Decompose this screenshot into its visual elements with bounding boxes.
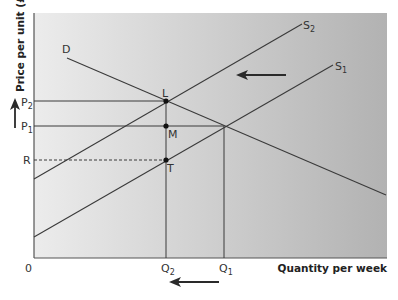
label-p1-sub: 1 bbox=[28, 126, 33, 135]
label-m: M bbox=[168, 128, 178, 141]
label-q1-sub: 1 bbox=[228, 268, 233, 277]
quantity-left-arrow-icon bbox=[169, 277, 219, 287]
label-r: R bbox=[23, 154, 31, 167]
label-l: L bbox=[162, 87, 169, 100]
label-d: D bbox=[62, 43, 70, 56]
price-up-arrow-icon bbox=[10, 98, 20, 128]
label-q2: Q2 bbox=[161, 262, 175, 277]
label-origin: 0 bbox=[25, 262, 32, 275]
label-p1: P1 bbox=[21, 120, 33, 135]
label-q1-main: Q bbox=[219, 262, 228, 275]
label-s2-main: S bbox=[303, 19, 310, 32]
label-s1-sub: 1 bbox=[342, 66, 347, 75]
label-t: T bbox=[166, 162, 174, 175]
label-s2-sub: 2 bbox=[310, 25, 315, 34]
label-q1: Q1 bbox=[219, 262, 233, 277]
supply-demand-diagram: L M T D S2 S1 P2 P1 R Q2 Q1 0 Price per … bbox=[0, 0, 398, 300]
y-axis-title: Price per unit (£) bbox=[14, 0, 26, 92]
label-q2-sub: 2 bbox=[170, 268, 175, 277]
label-s1-main: S bbox=[335, 60, 342, 73]
label-q2-main: Q bbox=[161, 262, 170, 275]
label-p2: P2 bbox=[21, 96, 33, 111]
label-p2-sub: 2 bbox=[28, 102, 33, 111]
x-axis-title: Quantity per week bbox=[278, 262, 389, 274]
